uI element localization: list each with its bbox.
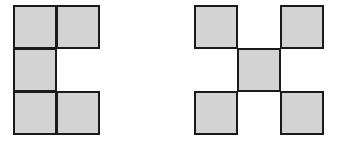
square-cell: [13, 5, 57, 49]
square-cell: [194, 91, 238, 135]
square-cell: [280, 5, 324, 49]
square-cell: [13, 48, 57, 92]
square-cell: [13, 91, 57, 135]
square-cell: [56, 5, 100, 49]
square-cell: [280, 91, 324, 135]
square-cell: [56, 91, 100, 135]
square-cell: [237, 48, 281, 92]
square-cell: [194, 5, 238, 49]
